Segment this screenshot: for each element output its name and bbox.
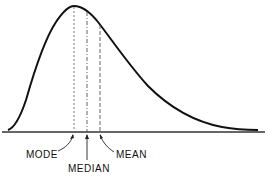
mode-label: MODE [26,149,58,160]
mean-label: MEAN [116,149,147,160]
mean-arrowhead [100,134,103,139]
mode-leader [58,135,73,151]
mode-arrowhead [70,134,74,139]
median-arrowhead [85,134,89,139]
distribution-curve [8,6,258,130]
distribution-diagram: MODE MEDIAN MEAN [0,0,273,178]
median-label: MEDIAN [68,163,110,174]
